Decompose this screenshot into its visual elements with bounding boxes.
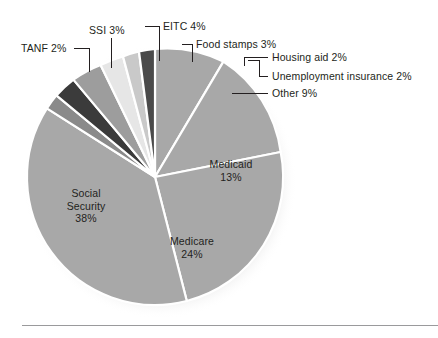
callout-label-housing-aid: Housing aid 2%	[272, 51, 347, 63]
callout-label-other: Other 9%	[272, 87, 317, 99]
callout-label-ssi: SSI 3%	[89, 24, 125, 36]
leader-line-unemployment-insurance	[248, 60, 268, 76]
slice-label-medicaid-name: Medicaid	[210, 158, 253, 170]
callout-label-food-stamps: Food stamps 3%	[196, 38, 276, 50]
slice-label-social-security: Social Security 38%	[50, 187, 122, 225]
slice-label-medicare: Medicare 24%	[152, 235, 232, 260]
slice-label-medicare-value: 24%	[181, 248, 202, 260]
slice-label-social-security-line2: Security	[67, 200, 106, 212]
footer-divider	[22, 325, 438, 326]
callout-label-tanf: TANF 2%	[21, 42, 66, 54]
slice-label-social-security-line1: Social	[71, 187, 100, 199]
leader-line-housing-aid	[244, 57, 268, 66]
slice-label-medicaid: Medicaid 13%	[196, 158, 266, 183]
callout-label-eitc: EITC 4%	[163, 20, 206, 32]
slice-label-medicare-name: Medicare	[170, 235, 214, 247]
callout-label-unemployment-insurance: Unemployment insurance 2%	[272, 70, 412, 82]
slice-label-medicaid-value: 13%	[220, 171, 241, 183]
slice-label-social-security-value: 38%	[75, 212, 96, 224]
pie-chart-figure: TANF 2% SSI 3% EITC 4% Food stamps 3% Ho…	[0, 0, 438, 338]
